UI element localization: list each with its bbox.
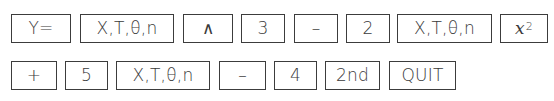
key-label: + bbox=[27, 67, 41, 84]
key-label: – bbox=[238, 67, 247, 84]
key-plus[interactable]: + bbox=[11, 61, 57, 90]
key-5[interactable]: 5 bbox=[65, 61, 108, 90]
key-label: 5 bbox=[81, 67, 92, 84]
key-label: 2 bbox=[362, 20, 373, 37]
key-y-equals[interactable]: Y= bbox=[11, 14, 71, 43]
key-label: X,T,θ,n bbox=[414, 20, 475, 37]
key-quit[interactable]: QUIT bbox=[389, 61, 456, 90]
key-minus[interactable]: – bbox=[219, 61, 266, 90]
key-label: Y= bbox=[28, 20, 53, 37]
key-minus[interactable]: – bbox=[294, 14, 338, 43]
key-superscript: 2 bbox=[526, 21, 533, 32]
key-xttheta-n[interactable]: X,T,θ,n bbox=[397, 14, 492, 43]
key-label: 2nd bbox=[336, 67, 369, 84]
key-xttheta-n[interactable]: X,T,θ,n bbox=[80, 14, 174, 43]
key-x-squared[interactable]: x2 bbox=[500, 14, 548, 43]
key-3[interactable]: 3 bbox=[241, 14, 285, 43]
key-label: QUIT bbox=[401, 67, 443, 84]
key-label: X,T,θ,n bbox=[97, 20, 158, 37]
key-2nd[interactable]: 2nd bbox=[325, 61, 380, 90]
key-label: 3 bbox=[257, 20, 268, 37]
key-caret[interactable]: ∧ bbox=[183, 14, 233, 43]
key-xttheta-n[interactable]: X,T,θ,n bbox=[116, 61, 210, 90]
key-label: 4 bbox=[290, 67, 301, 84]
key-label: ∧ bbox=[202, 20, 214, 37]
key-label: X,T,θ,n bbox=[133, 67, 194, 84]
key-4[interactable]: 4 bbox=[274, 61, 317, 90]
key-2[interactable]: 2 bbox=[346, 14, 390, 43]
key-label: x bbox=[515, 20, 525, 37]
key-label: – bbox=[312, 20, 321, 37]
